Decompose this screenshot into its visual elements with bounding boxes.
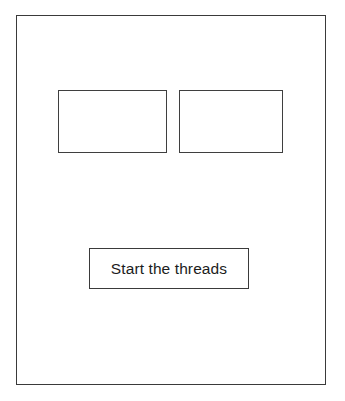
application-window: Start the threads bbox=[16, 15, 326, 385]
output-panel-right[interactable] bbox=[179, 90, 283, 153]
start-threads-button-label: Start the threads bbox=[111, 261, 227, 277]
output-panel-left[interactable] bbox=[58, 90, 167, 153]
start-threads-button[interactable]: Start the threads bbox=[89, 248, 249, 289]
window-client-area: Start the threads bbox=[17, 16, 325, 384]
